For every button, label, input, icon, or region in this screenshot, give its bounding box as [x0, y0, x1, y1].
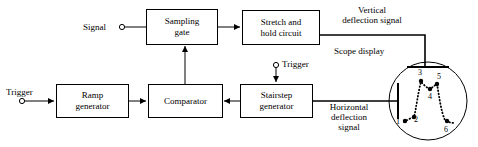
vertical-deflection-signal-label: Vertical deflection signal: [320, 5, 424, 25]
horizontal-deflection-signal-line3: signal: [316, 122, 382, 132]
signal-terminal-node: [119, 24, 124, 29]
scope-waveform-label-4: 4: [428, 93, 432, 101]
scope-waveform-label-3: 3: [418, 69, 422, 77]
trigger-terminal-stairstep-label: Trigger: [282, 59, 309, 69]
block-label-comparator: Comparator: [148, 84, 223, 118]
scope-display-crt: [389, 62, 467, 140]
scope-waveform-label-5: 5: [437, 73, 441, 81]
vertical-deflection-signal-line1: Vertical: [320, 5, 424, 15]
scope-waveform-point-5: [435, 82, 439, 86]
trigger-terminal-stairstep-node: [273, 62, 278, 67]
scope-waveform-label-2: 2: [414, 116, 418, 124]
scope-waveform-point-1: [403, 119, 407, 123]
block-label-ramp-generator-line2: generator: [76, 101, 110, 112]
block-label-ramp-generator-line1: Ramp: [76, 90, 110, 101]
scope-waveform-point-3: [419, 79, 423, 83]
horizontal-deflection-signal-line1: Horizontal: [316, 102, 382, 112]
block-label-sampling-gate: Sampling gate: [146, 9, 218, 45]
block-label-sampling-gate-line1: Sampling: [165, 16, 200, 27]
block-label-sampling-gate-line2: gate: [165, 27, 200, 38]
block-label-stairstep-generator-line1: Stairstep: [260, 90, 294, 101]
horizontal-deflection-signal-line2: deflection: [316, 112, 382, 122]
vertical-deflection-signal-line2: deflection signal: [320, 15, 424, 25]
trigger-terminal-left-label: Trigger: [6, 87, 33, 97]
scope-waveform-label-1: 1: [396, 118, 400, 126]
block-label-comparator-line1: Comparator: [164, 96, 207, 107]
horizontal-deflection-signal-label: Horizontal deflection signal: [316, 102, 382, 132]
sampling-oscilloscope-diagram: Sampling gate Stretch and hold circuit R…: [0, 0, 478, 147]
block-label-stretch-hold-line1: Stretch and: [260, 17, 301, 28]
scope-display-label: Scope display: [334, 46, 384, 56]
signal-terminal-label: Signal: [83, 22, 106, 32]
block-label-ramp-generator: Ramp generator: [56, 84, 129, 118]
scope-waveform-label-6: 6: [444, 126, 448, 134]
scope-waveform-point-6: [445, 119, 449, 123]
block-label-stairstep-generator: Stairstep generator: [240, 84, 313, 118]
trigger-terminal-left-node: [19, 98, 24, 103]
block-label-stretch-hold: Stretch and hold circuit: [242, 10, 320, 45]
block-label-stairstep-generator-line2: generator: [260, 101, 294, 112]
scope-waveform-point-4: [428, 87, 432, 91]
block-label-stretch-hold-line2: hold circuit: [260, 28, 301, 39]
